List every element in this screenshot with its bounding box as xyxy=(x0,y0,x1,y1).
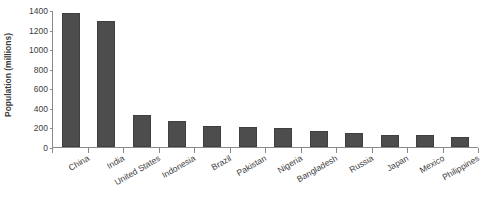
bars-layer xyxy=(53,11,478,147)
x-axis-label-india: India xyxy=(105,153,126,171)
bar-nigeria[interactable] xyxy=(274,128,292,147)
bar-slot xyxy=(372,11,407,147)
plot-area xyxy=(52,11,478,148)
y-tick-mark xyxy=(50,31,53,32)
bar-slot xyxy=(336,11,371,147)
y-tick-mark xyxy=(50,70,53,71)
bar-slot xyxy=(443,11,478,147)
bar-india[interactable] xyxy=(97,21,115,147)
bar-slot xyxy=(266,11,301,147)
x-axis-label-brazil: Brazil xyxy=(209,153,232,172)
bar-china[interactable] xyxy=(62,13,80,147)
y-tick-label: 1400 xyxy=(29,6,48,16)
bar-slot xyxy=(407,11,442,147)
bar-japan[interactable] xyxy=(381,135,399,147)
bar-russia[interactable] xyxy=(345,133,363,147)
y-tick-label: 600 xyxy=(34,84,48,94)
y-tick-mark xyxy=(50,89,53,90)
y-tick-mark xyxy=(50,128,53,129)
bar-slot xyxy=(159,11,194,147)
x-axis-label-russia: Russia xyxy=(347,153,375,175)
y-tick-mark xyxy=(50,11,53,12)
y-tick-mark xyxy=(50,109,53,110)
y-tick-mark xyxy=(50,50,53,51)
bar-slot xyxy=(88,11,123,147)
bar-indonesia[interactable] xyxy=(168,121,186,147)
bar-mexico[interactable] xyxy=(416,135,434,147)
y-tick-label: 0 xyxy=(43,143,48,153)
y-tick-label: 1200 xyxy=(29,26,48,36)
bar-slot xyxy=(53,11,88,147)
y-tick-label: 400 xyxy=(34,104,48,114)
bar-slot xyxy=(230,11,265,147)
bar-brazil[interactable] xyxy=(203,126,221,147)
bar-bangladesh[interactable] xyxy=(310,131,328,147)
bar-philippines[interactable] xyxy=(451,137,469,147)
bar-united-states[interactable] xyxy=(133,115,151,147)
bar-slot xyxy=(124,11,159,147)
bar-slot xyxy=(195,11,230,147)
y-axis-tick-labels: 0200400600800100012001400 xyxy=(16,0,50,155)
y-axis-title-text: Population (millions) xyxy=(3,33,13,117)
bar-pakistan[interactable] xyxy=(239,127,257,147)
x-axis-category-labels: ChinaIndiaUnited StatesIndonesiaBrazilPa… xyxy=(52,153,478,213)
x-axis-label-philippines: Philippines xyxy=(440,153,481,182)
y-tick-label: 800 xyxy=(34,65,48,75)
x-axis-label-indonesia: Indonesia xyxy=(160,153,197,180)
y-tick-label: 1000 xyxy=(29,45,48,55)
y-axis-title: Population (millions) xyxy=(0,0,16,150)
x-axis-label-pakistan: Pakistan xyxy=(235,153,268,178)
y-tick-label: 200 xyxy=(34,123,48,133)
x-axis-label-china: China xyxy=(66,153,90,173)
x-tick-mark xyxy=(478,148,479,153)
population-bar-chart: Population (millions) 020040060080010001… xyxy=(0,0,486,213)
x-axis-label-japan: Japan xyxy=(385,153,410,173)
bar-slot xyxy=(301,11,336,147)
